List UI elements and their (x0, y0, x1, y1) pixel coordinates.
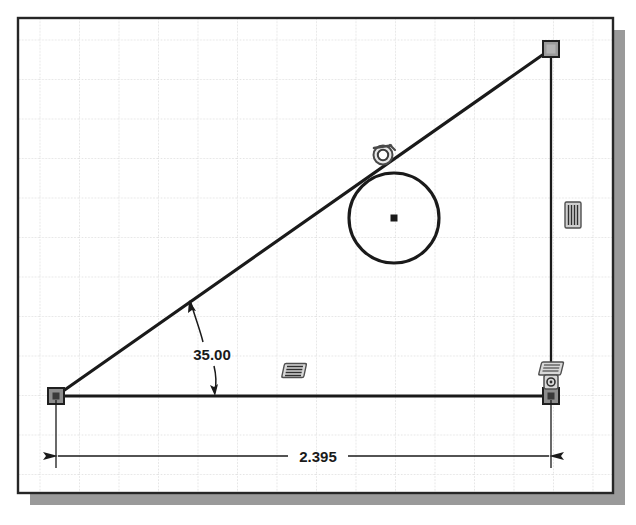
vertical-icon[interactable] (565, 202, 581, 228)
linear-dimension-value: 2.395 (299, 448, 337, 465)
circle-center-point[interactable] (391, 215, 398, 222)
sketch-canvas[interactable]: 35.00 2.395 (0, 0, 636, 525)
angular-dimension-value: 35.00 (193, 346, 231, 363)
sketch-grid (18, 18, 613, 493)
cad-sketch-screenshot: 35.00 2.395 (0, 0, 636, 525)
horizontal-icon[interactable] (282, 364, 307, 378)
endpoint-top-right[interactable] (543, 41, 559, 57)
coincident-icon[interactable] (544, 375, 558, 389)
horizontal-icon-corner[interactable] (539, 362, 564, 375)
